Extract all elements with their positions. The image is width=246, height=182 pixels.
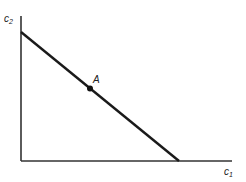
point-a-marker [87, 86, 93, 92]
budget-line [21, 32, 179, 161]
y-axis-label-subscript: 2 [8, 18, 13, 25]
x-axis-label: c1 [224, 166, 233, 178]
budget-line-diagram: A c2 c1 [0, 0, 246, 182]
point-a-label: A [92, 74, 100, 85]
y-axis-label: c2 [4, 13, 13, 25]
x-axis-label-subscript: 1 [229, 171, 233, 178]
